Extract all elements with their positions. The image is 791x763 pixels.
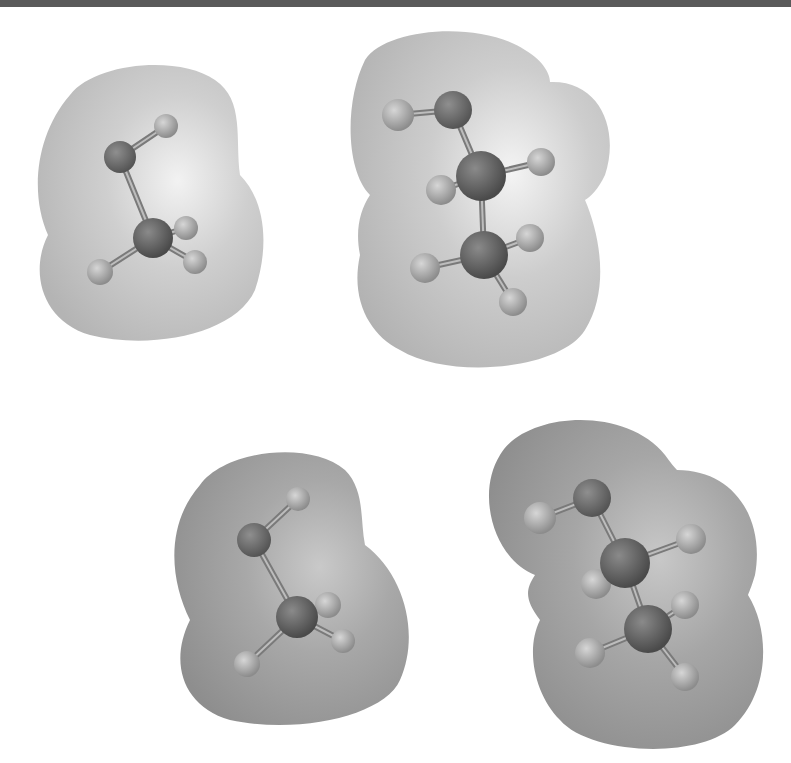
carbon-atom [456, 151, 506, 201]
hydrogen-atom [315, 592, 341, 618]
carbon-atom [600, 538, 650, 588]
hydrogen-atom [676, 524, 706, 554]
oxygen-atom [434, 91, 472, 129]
hydrogen-atom [154, 114, 178, 138]
carbon-atom [276, 596, 318, 638]
hydrogen-atom [286, 487, 310, 511]
carbon-atom [133, 218, 173, 258]
hydrogen-atom [331, 629, 355, 653]
methanol-molecule-light [38, 65, 264, 341]
hydrogen-atom [527, 148, 555, 176]
oxygen-atom [573, 479, 611, 517]
hydrogen-atom [410, 253, 440, 283]
hydrogen-atom [234, 651, 260, 677]
hydrogen-atom [575, 638, 605, 668]
molecule-canvas [0, 0, 791, 763]
hydrogen-atom [524, 502, 556, 534]
molecule-figure [0, 0, 791, 763]
methanol-molecule-dark [174, 452, 408, 725]
hydrogen-atom [174, 216, 198, 240]
hydrogen-atom [87, 259, 113, 285]
carbon-atom [624, 605, 672, 653]
electron-density-surface [38, 65, 264, 341]
ethanol-molecule-light [351, 31, 610, 367]
hydrogen-atom [382, 99, 414, 131]
hydrogen-atom [516, 224, 544, 252]
hydrogen-atom [671, 591, 699, 619]
ethanol-molecule-dark [489, 420, 763, 749]
oxygen-atom [104, 141, 136, 173]
hydrogen-atom [426, 175, 456, 205]
carbon-atom [460, 231, 508, 279]
oxygen-atom [237, 523, 271, 557]
hydrogen-atom [499, 288, 527, 316]
hydrogen-atom [183, 250, 207, 274]
hydrogen-atom [671, 663, 699, 691]
